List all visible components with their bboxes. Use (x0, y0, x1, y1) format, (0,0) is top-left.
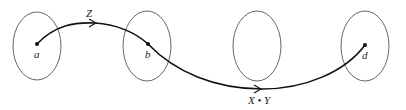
point-b (146, 42, 150, 46)
point-label-a: a (34, 48, 40, 60)
path-xy-curve (148, 44, 365, 89)
path-diagram: a b d Z X • Y (0, 0, 406, 110)
path-label-xy: X • Y (247, 94, 272, 106)
path-z-curve (37, 23, 148, 44)
point-a (35, 42, 39, 46)
path-label-z: Z (86, 7, 93, 19)
point-d (363, 43, 367, 47)
point-label-d: d (362, 49, 368, 61)
point-label-b: b (145, 48, 151, 60)
set-ellipse-3 (233, 11, 281, 81)
set-ellipse-2 (123, 11, 171, 81)
